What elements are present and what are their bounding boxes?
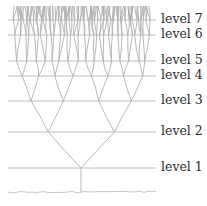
level-6-label: level 6 [161,28,203,41]
level-1-label: level 1 [161,161,203,174]
ground-line [8,191,156,193]
tree-branches [13,6,150,192]
level-7-label: level 7 [161,13,203,26]
level-3-label: level 3 [161,94,203,107]
level-lines [8,20,156,168]
level-5-label: level 5 [161,54,203,67]
level-2-label: level 2 [161,125,203,138]
level-4-label: level 4 [161,69,203,82]
